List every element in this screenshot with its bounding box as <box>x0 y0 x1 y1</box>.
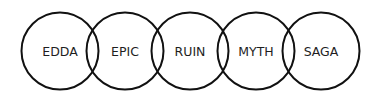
circles-diagram: EDDAEPICRUINMYTHSAGA <box>0 0 379 104</box>
circle-label: RUIN <box>175 44 206 59</box>
circle-label: MYTH <box>238 44 273 59</box>
circle-label: EPIC <box>111 44 139 59</box>
circle-label: SAGA <box>304 44 339 59</box>
circle-label: EDDA <box>42 44 78 59</box>
